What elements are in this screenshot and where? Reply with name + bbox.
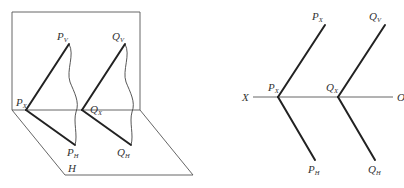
label-qx: QX — [90, 103, 103, 116]
q-wavy-curve — [125, 44, 133, 145]
q-h-trace-line — [338, 97, 375, 160]
q-v-trace-line — [82, 44, 125, 110]
label-ph: PH — [307, 163, 320, 176]
v-plane — [12, 12, 140, 110]
q-v-trace-line — [338, 25, 385, 97]
p-v-trace-line — [278, 25, 325, 97]
p-h-trace-line — [26, 110, 75, 145]
label-pv: PV — [56, 30, 69, 43]
axis-label-x: X — [241, 91, 250, 103]
axis-label-o: O — [397, 91, 404, 103]
label-qh: QH — [117, 146, 130, 159]
label-pv: PX — [311, 10, 324, 23]
label-ph: PH — [66, 146, 79, 159]
label-px: PX — [15, 96, 28, 109]
left-figure: PV QV PX QX PH QH H — [12, 12, 193, 175]
q-h-trace-line — [82, 110, 131, 145]
label-qx: QX — [326, 81, 339, 94]
label-qv: QV — [112, 30, 125, 43]
p-wavy-curve — [69, 44, 77, 145]
diagram-canvas: PV QV PX QX PH QH H X O PX QV PX QX PH Q… — [0, 0, 404, 188]
label-h-plane: H — [67, 162, 77, 174]
p-h-trace-line — [278, 97, 315, 160]
right-figure: X O PX QV PX QX PH QH — [241, 10, 404, 176]
p-v-trace-line — [26, 44, 69, 110]
label-qh: QH — [368, 163, 381, 176]
label-qv: QV — [369, 10, 382, 23]
label-px: PX — [267, 81, 280, 94]
